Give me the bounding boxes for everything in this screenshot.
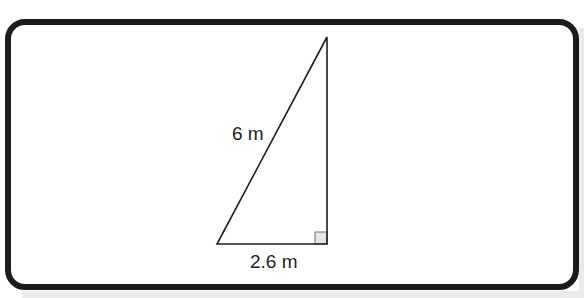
triangle-figure: 6 m 2.6 m bbox=[0, 0, 584, 298]
base-label: 2.6 m bbox=[250, 251, 298, 272]
right-angle-marker bbox=[315, 232, 327, 244]
diagram-canvas: 6 m 2.6 m bbox=[0, 0, 584, 298]
hypotenuse-label: 6 m bbox=[232, 123, 264, 144]
